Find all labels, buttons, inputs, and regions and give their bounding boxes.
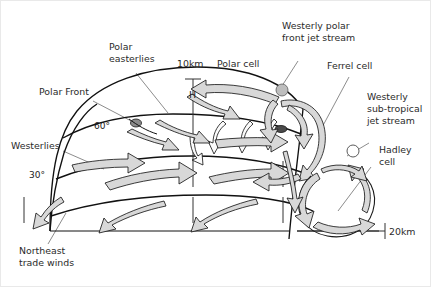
polar-hook-arrow — [208, 121, 226, 154]
label-altitude-10km: 10km — [177, 58, 204, 69]
label-polar-cell: Polar cell — [217, 58, 259, 69]
polar-hook-arrow-2 — [236, 121, 253, 153]
label-ne-trade-winds-line1: Northeast — [19, 245, 66, 256]
polar-easterly-arrow-1 — [155, 120, 210, 143]
label-polar-easterlies-line1: Polar — [109, 41, 132, 52]
label-pressure-high: H — [189, 89, 196, 100]
label-westerlies: Westerlies — [11, 140, 60, 151]
hadley-cell-top-arrow — [321, 165, 367, 181]
trade-wind-arrow-2 — [191, 199, 258, 232]
label-polar-jet-line1: Westerly polar — [282, 20, 350, 31]
circulation-figure: Polar easterlies Polar Front Westerlies … — [1, 1, 431, 287]
hadley-cell-bottom-arrow — [313, 218, 375, 235]
polar-cell-upper-arrow — [191, 80, 279, 104]
label-subtropical-jet-line2: sub-tropical — [367, 103, 422, 114]
label-polar-front: Polar Front — [39, 86, 89, 97]
label-subtropical-jet-line3: jet stream — [366, 115, 415, 126]
atmospheric-circulation-diagram: Polar easterlies Polar Front Westerlies … — [0, 0, 431, 287]
label-latitude-60: 60° — [94, 121, 110, 131]
westerly-arrow-upper — [215, 132, 288, 152]
label-polar-easterlies-line2: easterlies — [109, 53, 155, 64]
label-hadley-cell-line2: cell — [379, 156, 395, 167]
label-hadley-cell-line1: Hadley — [379, 144, 412, 155]
label-latitude-30: 30° — [29, 170, 45, 180]
leader-polar-easterlies — [136, 73, 168, 113]
label-scale-20km: 20km — [389, 226, 416, 237]
trade-winds-arrows — [33, 197, 258, 233]
trade-wind-arrow-1 — [99, 201, 166, 233]
label-ferrel-cell: Ferrel cell — [327, 60, 372, 71]
label-subtropical-jet-line1: Westerly — [367, 91, 408, 102]
westerly-arrow-1 — [72, 153, 145, 173]
arc-lower-level — [51, 195, 313, 216]
subtropical-jet-circle-icon — [347, 145, 359, 157]
polar-jet-circle-icon — [276, 84, 288, 96]
earth-dome — [50, 67, 313, 239]
label-polar-jet-line2: front jet stream — [282, 32, 355, 43]
subtropical-jet-marker — [347, 145, 359, 157]
label-ne-trade-winds-line2: trade winds — [19, 257, 74, 268]
